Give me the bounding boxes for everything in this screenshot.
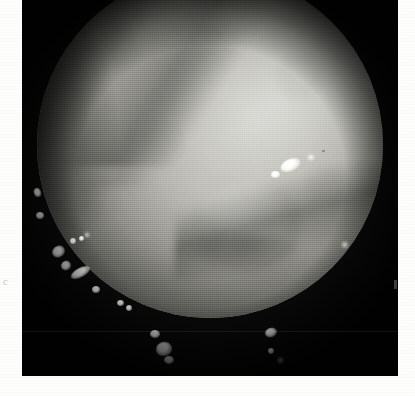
specular-highlight	[264, 326, 278, 338]
specular-highlight	[117, 300, 124, 306]
specular-highlight	[271, 171, 280, 178]
specular-highlight	[342, 242, 348, 248]
specular-highlight	[164, 356, 174, 364]
specular-highlight	[278, 358, 283, 363]
specular-highlight	[126, 305, 132, 311]
specular-highlight	[155, 340, 174, 357]
specular-highlight	[70, 238, 76, 244]
specular-highlight	[85, 233, 89, 237]
scan-sheet: c	[0, 0, 415, 396]
specular-highlight	[79, 236, 84, 241]
scanner-edge-speck	[394, 280, 397, 289]
scan-seam-line	[22, 331, 398, 332]
figure-panel-letter: c	[3, 276, 8, 287]
specular-highlight	[308, 155, 314, 160]
specular-highlight	[92, 286, 100, 293]
scanner-corner-speck	[322, 150, 325, 152]
specular-highlight	[268, 348, 274, 354]
specular-highlight	[36, 212, 44, 219]
endoscopy-photo-frame	[22, 0, 398, 376]
